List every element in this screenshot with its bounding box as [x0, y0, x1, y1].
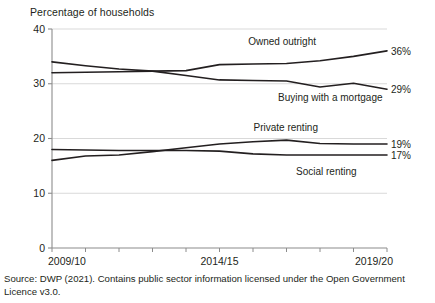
y-tick-label: 10 — [33, 187, 45, 199]
x-tick-label-group: 2009/102014/152019/20 — [48, 255, 393, 267]
chart-figure: Percentage of households 010203040 2009/… — [0, 0, 435, 303]
data-series-group — [52, 51, 387, 160]
x-tick-marks-group — [52, 248, 387, 252]
x-tick-label: 2014/15 — [201, 255, 239, 267]
y-tick-label: 0 — [39, 242, 45, 254]
x-tick-label: 2009/10 — [48, 255, 86, 267]
series-name-label-1: Buying with a mortgage — [278, 92, 383, 103]
end-value-label-group: 36%29%19%17% — [391, 46, 411, 161]
series-end-value-1: 29% — [391, 84, 411, 95]
series-line-1 — [52, 62, 387, 89]
source-note: Source: DWP (2021). Contains public sect… — [4, 272, 432, 298]
series-name-label-0: Owned outright — [248, 36, 316, 47]
series-line-0 — [52, 51, 387, 73]
y-tick-label-group: 010203040 — [33, 23, 45, 254]
series-name-label-3: Social renting — [296, 166, 357, 177]
series-label-group: Owned outrightBuying with a mortgagePriv… — [248, 36, 383, 177]
series-end-value-2: 19% — [391, 139, 411, 150]
series-name-label-2: Private renting — [254, 122, 318, 133]
line-chart-plot: 010203040 2009/102014/152019/20 Owned ou… — [0, 0, 435, 270]
y-tick-label: 20 — [33, 132, 45, 144]
series-line-3 — [52, 149, 387, 154]
gridlines-group — [48, 29, 387, 248]
y-tick-label: 30 — [33, 77, 45, 89]
series-end-value-3: 17% — [391, 150, 411, 161]
x-tick-label: 2019/20 — [355, 255, 393, 267]
series-end-value-0: 36% — [391, 46, 411, 57]
y-tick-label: 40 — [33, 23, 45, 35]
